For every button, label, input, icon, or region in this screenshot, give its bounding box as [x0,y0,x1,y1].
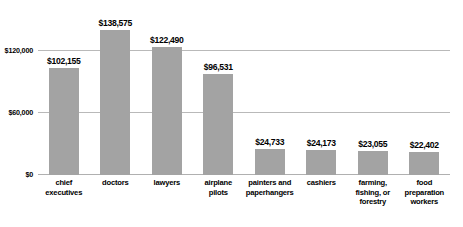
category-label: farming,fishing, orforestry [347,178,399,207]
category-label: chiefexecutives [38,178,90,197]
y-tick-label-0: $0 [25,170,33,179]
bar[interactable] [49,68,79,175]
category-label: doctors [89,178,141,188]
bar-value-label: $24,173 [307,138,336,148]
bar[interactable] [358,151,388,175]
y-tick-label-120000: $120,000 [5,45,33,54]
bar[interactable] [409,152,439,175]
category-label: lawyers [141,178,193,188]
bars-layer: $102,155$138,575$122,490$96,531$24,733$2… [38,8,450,175]
bar[interactable] [306,150,336,175]
plot-area: $120,000 $60,000 $0 $102,155$138,575$122… [38,8,450,175]
bar-value-label: $102,155 [47,56,80,66]
bar-value-label: $96,531 [204,62,233,72]
bar[interactable] [100,30,130,175]
bar-chart: $120,000 $60,000 $0 $102,155$138,575$122… [0,0,463,227]
category-label: painters andpaperhangers [244,178,296,197]
bar-value-label: $23,055 [358,139,387,149]
category-label: airplanepilots [192,178,244,197]
category-label: cashiers [295,178,347,188]
bar[interactable] [152,47,182,175]
category-label: foodpreparationworkers [398,178,450,207]
category-labels: chiefexecutivesdoctorslawyersairplanepil… [38,178,450,226]
bar-value-label: $122,490 [150,35,183,45]
bar-value-label: $138,575 [99,18,132,28]
bar-value-label: $24,733 [255,137,284,147]
bar[interactable] [255,149,285,175]
bar-value-label: $22,402 [410,140,439,150]
y-tick-label-60000: $60,000 [8,108,33,117]
bar[interactable] [203,74,233,175]
